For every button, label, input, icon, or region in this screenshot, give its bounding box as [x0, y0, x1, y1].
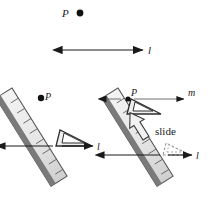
- line-l-label: l: [148, 44, 151, 56]
- point-p-dot: [38, 95, 44, 101]
- construction-figure: P l: [0, 0, 210, 207]
- point-p-dot: [125, 96, 130, 101]
- line-l-label: l: [97, 141, 100, 152]
- point-p-dot: [77, 10, 84, 17]
- point-p-label: P: [130, 87, 137, 98]
- line-m-label: m: [188, 87, 195, 98]
- line-l-label: l: [196, 150, 199, 161]
- point-p-label: P: [61, 7, 69, 19]
- point-p-label: P: [44, 91, 51, 102]
- slide-label: slide: [155, 125, 176, 137]
